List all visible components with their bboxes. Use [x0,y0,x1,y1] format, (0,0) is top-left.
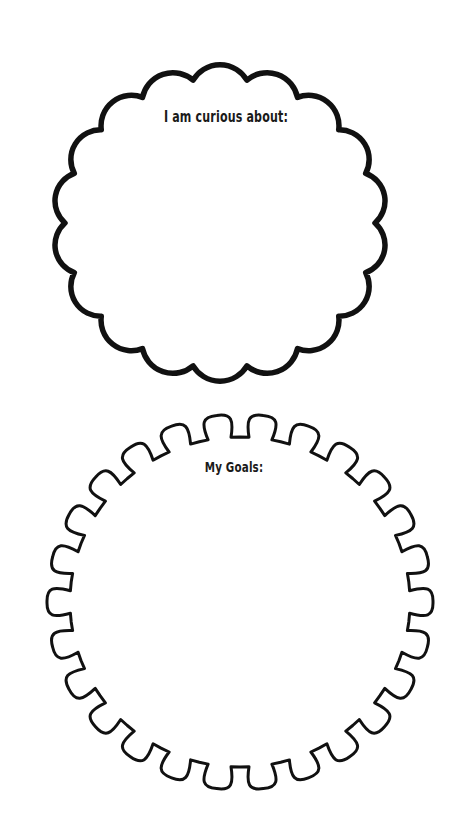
worksheet-page: I am curious about: My Goals: [0,0,458,827]
goals-heading: My Goals: [205,459,263,475]
goals-writing-area[interactable] [100,485,384,739]
curious-writing-area[interactable] [90,135,359,339]
curious-heading: I am curious about: [164,108,288,126]
